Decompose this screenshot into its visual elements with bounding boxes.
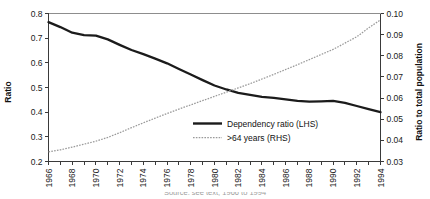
right-axis-tick-label: 0.06: [387, 93, 404, 103]
x-axis-tick-label: 1976: [162, 168, 172, 187]
right-axis-tick-label: 0.09: [387, 30, 404, 40]
left-axis-tick-label: 0.2: [31, 157, 43, 167]
x-axis-tick-label: 1984: [257, 168, 267, 187]
left-axis-tick-label: 0.3: [31, 132, 43, 142]
dual-axis-line-chart: 0.20.30.40.50.60.70.8 0.030.040.050.060.…: [0, 0, 430, 199]
right-axis-tick-label: 0.04: [387, 135, 404, 145]
x-axis-tick-label: 1990: [328, 168, 338, 187]
legend-label-dependency-ratio: Dependency ratio (LHS): [227, 119, 318, 129]
x-axis-tick-label: 1978: [186, 168, 196, 187]
x-axis-tick-label: 1982: [233, 168, 243, 187]
chart-figure: 0.20.30.40.50.60.70.8 0.030.040.050.060.…: [0, 0, 430, 199]
right-axis-title: Ratio to total population: [414, 43, 424, 141]
right-axis-tick-label: 0.05: [387, 114, 404, 124]
left-axis-tick-label: 0.5: [31, 83, 43, 93]
x-axis-tick-label: 1994: [376, 168, 386, 187]
left-axis-tick-label: 0.4: [31, 107, 43, 117]
right-axis-tick-label: 0.10: [387, 9, 404, 19]
right-axis-tick-label: 0.03: [387, 157, 404, 167]
legend-label-over-64-years: >64 years (RHS): [227, 133, 291, 143]
left-axis-tick-label: 0.6: [31, 58, 43, 68]
left-axis-tick-label: 0.7: [31, 33, 43, 43]
x-axis-tick-label: 1974: [138, 168, 148, 187]
right-axis-tick-label: 0.07: [387, 72, 404, 82]
x-axis-tick-label: 1980: [210, 168, 220, 187]
x-axis-tick-label: 1970: [91, 168, 101, 187]
left-axis-tick-label: 0.8: [31, 9, 43, 19]
x-axis-tick-label: 1986: [281, 168, 291, 187]
right-axis-tick-label: 0.08: [387, 51, 404, 61]
x-axis-tick-label: 1972: [115, 168, 125, 187]
x-axis-tick-label: 1968: [67, 168, 77, 187]
left-axis-title: Ratio: [3, 81, 13, 102]
x-axis-tick-label: 1992: [352, 168, 362, 187]
x-axis-tick-label: 1966: [44, 168, 54, 187]
x-axis-tick-label: 1988: [304, 168, 314, 187]
